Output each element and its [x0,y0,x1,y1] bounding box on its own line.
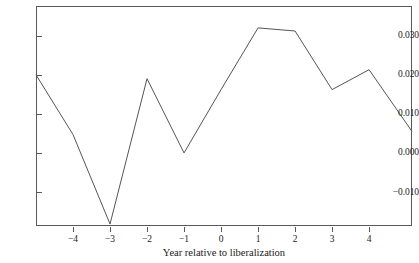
x-tick-label: 2 [280,234,310,245]
x-tick-mark [147,227,148,232]
x-tick-mark [332,227,333,232]
x-tick-mark [184,227,185,232]
series-polyline [36,28,412,224]
y-tick-label: 0.030 [387,31,419,41]
x-tick-label: 1 [243,234,273,245]
y-tick-mark [37,192,42,193]
y-tick-mark [37,114,42,115]
x-tick-mark [295,227,296,232]
x-axis-title: Year relative to liberalization [36,247,412,259]
x-tick-mark [110,227,111,232]
y-tick-label: 0.000 [387,148,419,158]
y-tick-mark [37,153,42,154]
x-tick-mark [369,227,370,232]
x-tick-label: −1 [169,234,199,245]
x-tick-mark [258,227,259,232]
x-tick-mark [221,227,222,232]
y-tick-mark [37,36,42,37]
x-tick-label: 0 [206,234,236,245]
line-series [36,6,412,226]
chart-figure: 0.0300.0200.0100.000−0.010−4−3−2−101234Y… [0,0,419,263]
x-tick-label: −3 [95,234,125,245]
x-tick-label: 4 [354,234,384,245]
y-tick-mark [37,75,42,76]
x-tick-label: −4 [58,234,88,245]
y-tick-label: 0.010 [387,109,419,119]
y-axis [0,0,36,263]
x-tick-mark [73,227,74,232]
x-tick-label: −2 [132,234,162,245]
y-tick-label: −0.010 [387,188,419,198]
x-tick-label: 3 [317,234,347,245]
y-tick-label: 0.020 [387,70,419,80]
